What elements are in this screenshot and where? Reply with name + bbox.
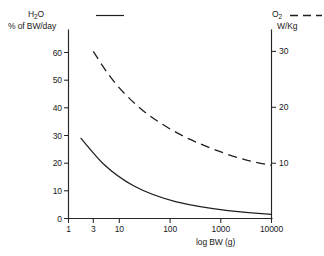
x-axis-title: log BW (g) — [196, 238, 235, 247]
x-tick-label-100: 100 — [156, 225, 184, 234]
left-tick-label-50: 50 — [40, 76, 62, 85]
left-tick-label-60: 60 — [40, 49, 62, 58]
left-tick-label-20: 20 — [40, 159, 62, 168]
right-axis-title: W/Kg — [277, 22, 297, 31]
left-tick-label-0: 0 — [40, 215, 62, 224]
left-tick-label-10: 10 — [40, 187, 62, 196]
legend-label-o2-sub: 2 — [279, 13, 283, 20]
x-tick-label-1: 1 — [59, 225, 79, 234]
x-tick-label-3: 3 — [83, 225, 103, 234]
left-tick-label-30: 30 — [40, 132, 62, 141]
legend-label-h2o: H2O — [28, 10, 44, 19]
x-tick-label-1000: 1000 — [205, 225, 237, 234]
right-tick-label-30: 30 — [279, 47, 288, 56]
left-tick-label-40: 40 — [40, 104, 62, 113]
right-tick-label-10: 10 — [279, 159, 288, 168]
legend-label-h2o-tail: O — [38, 9, 45, 19]
series-curve-h2o — [81, 138, 272, 214]
left-axis-title: % of BW/day — [8, 22, 56, 31]
chart-figure: H2O O2 % of BW/day W/Kg log BW (g) 0 10 … — [0, 0, 324, 256]
x-tick-label-10: 10 — [107, 225, 131, 234]
right-tick-label-20: 20 — [279, 103, 288, 112]
legend-label-o2: O2 — [272, 10, 282, 19]
x-tick-label-10000: 10000 — [254, 225, 290, 234]
legend-label-o2-main: O — [272, 9, 279, 19]
series-curve-o2 — [93, 51, 271, 165]
legend-label-h2o-sub: 2 — [34, 13, 38, 20]
